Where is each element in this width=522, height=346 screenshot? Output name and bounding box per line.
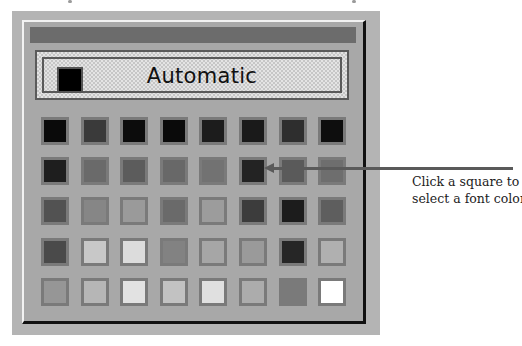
color-swatch[interactable] xyxy=(160,197,188,225)
color-swatch[interactable] xyxy=(160,238,188,266)
callout-line-2: select a font color xyxy=(412,190,522,207)
color-swatch[interactable] xyxy=(199,197,227,225)
color-swatch[interactable] xyxy=(41,238,69,266)
automatic-focus-rect: Automatic xyxy=(42,57,342,93)
glyph-fragment xyxy=(68,0,72,3)
color-swatch[interactable] xyxy=(239,238,267,266)
color-swatch[interactable] xyxy=(120,157,148,185)
glyph-fragment xyxy=(352,0,356,3)
callout-line-1: Click a square to xyxy=(412,173,522,190)
color-swatch[interactable] xyxy=(279,197,307,225)
color-swatch[interactable] xyxy=(318,278,346,306)
color-swatch[interactable] xyxy=(199,117,227,145)
automatic-label: Automatic xyxy=(44,64,340,88)
color-swatch[interactable] xyxy=(279,117,307,145)
color-swatch[interactable] xyxy=(41,278,69,306)
color-swatch[interactable] xyxy=(279,238,307,266)
color-swatch[interactable] xyxy=(81,238,109,266)
color-swatch[interactable] xyxy=(160,278,188,306)
color-swatch[interactable] xyxy=(41,117,69,145)
color-swatch[interactable] xyxy=(160,157,188,185)
color-swatch[interactable] xyxy=(120,278,148,306)
color-swatch[interactable] xyxy=(199,157,227,185)
callout-leader-line xyxy=(272,167,513,170)
color-swatch[interactable] xyxy=(81,278,109,306)
color-swatch[interactable] xyxy=(279,278,307,306)
color-swatch[interactable] xyxy=(318,157,346,185)
color-swatch[interactable] xyxy=(199,238,227,266)
color-swatch[interactable] xyxy=(239,278,267,306)
color-swatch[interactable] xyxy=(120,238,148,266)
color-swatch[interactable] xyxy=(318,197,346,225)
color-swatch[interactable] xyxy=(81,117,109,145)
color-swatch[interactable] xyxy=(279,157,307,185)
color-swatch[interactable] xyxy=(41,157,69,185)
automatic-color-button[interactable]: Automatic xyxy=(35,50,349,100)
color-swatch[interactable] xyxy=(81,157,109,185)
palette-title-bar[interactable] xyxy=(30,27,356,43)
cropped-caption-fragment xyxy=(0,0,522,8)
color-swatch[interactable] xyxy=(239,157,267,185)
color-swatch[interactable] xyxy=(160,117,188,145)
color-swatch[interactable] xyxy=(199,278,227,306)
color-swatch[interactable] xyxy=(81,197,109,225)
callout-annotation: Click a square to select a font color xyxy=(412,173,522,207)
color-swatch[interactable] xyxy=(239,197,267,225)
color-swatch[interactable] xyxy=(239,117,267,145)
color-swatch[interactable] xyxy=(318,238,346,266)
color-swatch[interactable] xyxy=(318,117,346,145)
color-swatch[interactable] xyxy=(120,117,148,145)
color-swatch[interactable] xyxy=(120,197,148,225)
color-swatch[interactable] xyxy=(41,197,69,225)
